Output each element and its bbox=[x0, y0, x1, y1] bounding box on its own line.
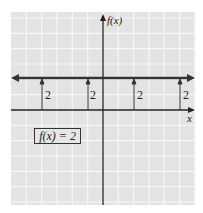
annotation-label: 2 bbox=[137, 88, 143, 102]
chart-canvas: x f(x) 2 2 2 2 bbox=[0, 0, 203, 213]
x-axis-label: x bbox=[186, 112, 192, 124]
annotation-label: 2 bbox=[90, 88, 96, 102]
y-axis-label: f(x) bbox=[107, 14, 123, 27]
function-label-box: f(x) = 2 bbox=[34, 128, 81, 144]
annotation-label: 2 bbox=[45, 88, 51, 102]
annotation-label: 2 bbox=[183, 88, 189, 102]
